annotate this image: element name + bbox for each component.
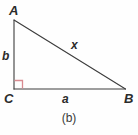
side-label-b: b [2, 50, 9, 62]
vertex-label-a: A [9, 4, 18, 17]
right-triangle-figure: A B C a b x (b) [0, 0, 138, 135]
vertex-label-c: C [4, 92, 13, 105]
figure-caption: (b) [0, 112, 138, 124]
side-label-a: a [62, 93, 69, 105]
side-label-x: x [71, 39, 78, 51]
right-angle-marker-icon [15, 81, 23, 89]
triangle-hypotenuse-x [14, 20, 126, 89]
vertex-label-b: B [124, 92, 133, 105]
